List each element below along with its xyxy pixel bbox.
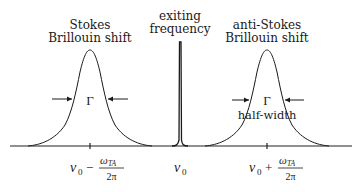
half-width-caption: half-width bbox=[238, 108, 297, 122]
exciting-frequency-spike bbox=[172, 42, 188, 146]
anti-stokes-label-line2: Brillouin shift bbox=[225, 31, 309, 45]
exciting-position-label: ν 0 bbox=[174, 160, 187, 177]
svg-text:ν: ν bbox=[249, 160, 256, 175]
svg-text:0: 0 bbox=[257, 167, 262, 177]
anti-stokes-position-label: ν 0 + ω TA 2π bbox=[249, 154, 303, 182]
exciting-label-line1: exiting bbox=[159, 9, 201, 23]
svg-text:0: 0 bbox=[182, 167, 187, 177]
svg-text:+: + bbox=[265, 160, 272, 175]
svg-text:TA: TA bbox=[108, 159, 117, 168]
anti-stokes-label-line1: anti-Stokes bbox=[233, 18, 301, 32]
svg-text:ω: ω bbox=[279, 154, 287, 166]
exciting-label-line2: frequency bbox=[149, 22, 210, 36]
svg-text:ν: ν bbox=[174, 160, 181, 175]
svg-text:0: 0 bbox=[78, 167, 83, 177]
svg-text:2π: 2π bbox=[285, 171, 295, 182]
svg-text:ν: ν bbox=[70, 160, 77, 175]
stokes-label-line1: Stokes bbox=[70, 18, 111, 32]
svg-text:TA: TA bbox=[287, 159, 296, 168]
stokes-position-label: ν 0 − ω TA 2π bbox=[70, 154, 124, 182]
brillouin-spectrum-diagram: Stokes Brillouin shift exiting frequency… bbox=[0, 0, 354, 192]
anti-stokes-width-symbol: Γ bbox=[263, 93, 271, 108]
stokes-label-line2: Brillouin shift bbox=[48, 31, 132, 45]
svg-text:ω: ω bbox=[100, 154, 108, 166]
stokes-width-symbol: Γ bbox=[86, 93, 94, 108]
svg-text:−: − bbox=[86, 160, 93, 175]
svg-text:2π: 2π bbox=[106, 171, 116, 182]
